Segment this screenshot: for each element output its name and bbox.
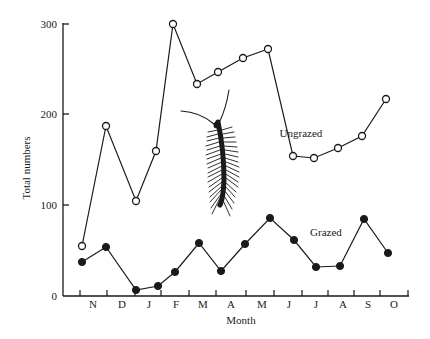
chart: 300 200 100 0 Total numbers N D J F M A …	[0, 0, 430, 339]
y-axis: 300 200 100 0 Total numbers	[20, 18, 69, 302]
x-tick-label: A	[227, 298, 235, 310]
grazed-markers	[78, 214, 391, 293]
ungrazed-markers	[79, 21, 390, 250]
x-tick-label: M	[198, 298, 208, 310]
y-tick-300: 300	[41, 18, 58, 30]
x-tick-label: M	[257, 298, 267, 310]
y-axis-label: Total numbers	[20, 136, 32, 199]
x-axis-label: Month	[226, 314, 256, 326]
series-grazed: Grazed	[78, 214, 391, 293]
x-tick-label: J	[147, 298, 152, 310]
ungrazed-label: Ungrazed	[280, 127, 323, 139]
centipede-illustration	[181, 90, 239, 216]
x-tick-label: J	[314, 298, 319, 310]
y-tick-0: 0	[52, 290, 58, 302]
x-tick-label: D	[118, 298, 126, 310]
x-tick-label: F	[173, 298, 179, 310]
x-tick-label: A	[339, 298, 347, 310]
x-tick-label: J	[287, 298, 292, 310]
x-axis: N D J F M A M J J A S O Month	[63, 290, 409, 326]
x-tick-label: S	[365, 298, 371, 310]
y-tick-100: 100	[41, 199, 58, 211]
x-tick-label: O	[390, 298, 398, 310]
series-ungrazed: Ungrazed	[79, 21, 390, 250]
x-tick-label: N	[89, 298, 97, 310]
grazed-label: Grazed	[310, 226, 342, 238]
y-tick-200: 200	[41, 108, 58, 120]
